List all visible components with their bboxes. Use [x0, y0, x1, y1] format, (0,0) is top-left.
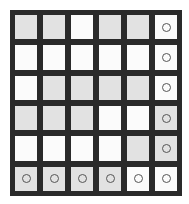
- grid-cell-r5-c0[interactable]: [15, 167, 37, 191]
- grid-cell-r3-c2[interactable]: [71, 106, 93, 130]
- circle-outline-icon: [162, 144, 171, 153]
- grid-cell-r1-c4[interactable]: [127, 45, 149, 69]
- grid-cell-r2-c3[interactable]: [99, 76, 121, 100]
- grid-cell-r2-c4[interactable]: [127, 76, 149, 100]
- grid-cell-r3-c4[interactable]: [127, 106, 149, 130]
- grid-cell-r4-c4[interactable]: [127, 136, 149, 160]
- grid-cell-r5-c1[interactable]: [43, 167, 65, 191]
- grid-cell-r0-c5[interactable]: [155, 15, 177, 39]
- grid-cell-r2-c2[interactable]: [71, 76, 93, 100]
- circle-outline-icon: [162, 23, 171, 32]
- grid-cell-r1-c2[interactable]: [71, 45, 93, 69]
- grid-cell-r2-c1[interactable]: [43, 76, 65, 100]
- circle-outline-icon: [162, 174, 171, 183]
- grid-cell-r0-c4[interactable]: [127, 15, 149, 39]
- grid-cell-r0-c2[interactable]: [71, 15, 93, 39]
- circle-outline-icon: [22, 174, 31, 183]
- grid-cell-r1-c3[interactable]: [99, 45, 121, 69]
- grid-cell-r4-c0[interactable]: [15, 136, 37, 160]
- circle-outline-icon: [50, 174, 59, 183]
- grid-cell-r3-c3[interactable]: [99, 106, 121, 130]
- grid-cell-r3-c5[interactable]: [155, 106, 177, 130]
- grid-cell-r3-c1[interactable]: [43, 106, 65, 130]
- grid-cell-r0-c0[interactable]: [15, 15, 37, 39]
- grid-cell-r4-c5[interactable]: [155, 136, 177, 160]
- grid-cell-r5-c4[interactable]: [127, 167, 149, 191]
- grid-cell-r4-c1[interactable]: [43, 136, 65, 160]
- grid-cell-r5-c2[interactable]: [71, 167, 93, 191]
- grid-cell-r0-c1[interactable]: [43, 15, 65, 39]
- circle-outline-icon: [106, 174, 115, 183]
- grid-cell-r5-c5[interactable]: [155, 167, 177, 191]
- grid-cell-r1-c5[interactable]: [155, 45, 177, 69]
- grid-cell-r2-c0[interactable]: [15, 76, 37, 100]
- circle-outline-icon: [162, 83, 171, 92]
- grid-cell-r2-c5[interactable]: [155, 76, 177, 100]
- grid-cell-r5-c3[interactable]: [99, 167, 121, 191]
- grid-cell-r1-c1[interactable]: [43, 45, 65, 69]
- circle-outline-icon: [134, 174, 143, 183]
- game-board: [10, 10, 182, 196]
- grid-cell-r4-c2[interactable]: [71, 136, 93, 160]
- circle-outline-icon: [78, 174, 87, 183]
- grid-cell-r1-c0[interactable]: [15, 45, 37, 69]
- grid-cell-r4-c3[interactable]: [99, 136, 121, 160]
- grid-cell-r3-c0[interactable]: [15, 106, 37, 130]
- circle-outline-icon: [162, 114, 171, 123]
- circle-outline-icon: [162, 53, 171, 62]
- grid-cell-r0-c3[interactable]: [99, 15, 121, 39]
